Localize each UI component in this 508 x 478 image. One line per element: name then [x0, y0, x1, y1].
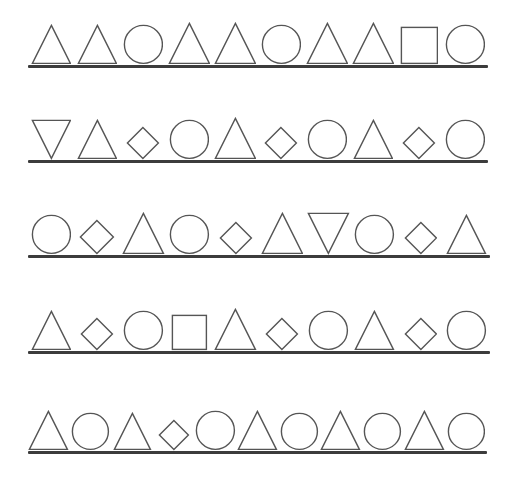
shape-triangle-up: [213, 308, 259, 351]
shape-circle: [167, 214, 213, 255]
shape-circle: [258, 24, 304, 65]
shape-row-5-baseline: [28, 451, 487, 454]
shape-triangle-up: [28, 310, 74, 351]
shape-triangle-up: [28, 410, 70, 451]
shape-circle: [304, 119, 350, 160]
shape-triangle-up: [304, 22, 350, 65]
shape-diamond: [258, 126, 304, 160]
shape-row-2-baseline: [28, 160, 488, 163]
shape-row-3-baseline: [28, 255, 490, 258]
shape-triangle-up: [350, 119, 396, 160]
shape-circle: [445, 412, 487, 451]
shape-circle: [70, 412, 112, 451]
shape-diamond: [120, 126, 166, 160]
shape-triangle-up: [320, 410, 362, 451]
shape-row-5-shapes: [28, 409, 487, 451]
shape-diamond: [396, 126, 442, 160]
shape-row-4-baseline: [28, 351, 490, 354]
shape-triangle-up: [74, 119, 120, 160]
shape-triangle-up: [259, 212, 305, 255]
shape-sequence-sheet: [0, 0, 508, 478]
shape-diamond: [74, 219, 120, 255]
shape-circle: [28, 214, 74, 255]
shape-diamond: [153, 419, 195, 451]
shape-triangle-up: [351, 310, 397, 351]
shape-triangle-down: [305, 212, 351, 255]
shape-triangle-up: [166, 22, 212, 65]
shape-circle: [195, 410, 237, 451]
shape-diamond: [213, 221, 259, 255]
shape-circle: [362, 412, 404, 451]
shape-diamond: [74, 317, 120, 351]
shape-circle: [278, 412, 320, 451]
shape-circle: [351, 214, 397, 255]
shape-triangle-up: [28, 24, 74, 65]
shape-triangle-up: [120, 212, 166, 255]
shape-circle: [442, 24, 488, 65]
shape-row-4-shapes: [28, 309, 490, 351]
shape-circle: [305, 310, 351, 351]
shape-row-1-baseline: [28, 65, 488, 68]
shape-triangle-up: [350, 22, 396, 65]
shape-triangle-up: [212, 117, 258, 160]
shape-triangle-up: [111, 412, 153, 451]
shape-triangle-down: [28, 119, 74, 160]
shape-diamond: [398, 317, 444, 351]
shape-triangle-up: [74, 24, 120, 65]
shape-diamond: [259, 317, 305, 351]
shape-circle: [442, 119, 488, 160]
shape-row-2-shapes: [28, 118, 488, 160]
shape-diamond: [398, 221, 444, 255]
shape-row-3-shapes: [28, 213, 490, 255]
shape-square: [167, 314, 213, 351]
shape-circle: [444, 310, 490, 351]
shape-square: [396, 26, 442, 65]
shape-triangle-up: [237, 410, 279, 451]
shape-triangle-up: [403, 410, 445, 451]
shape-row-1-shapes: [28, 22, 488, 65]
shape-circle: [120, 24, 166, 65]
shape-triangle-up: [444, 214, 490, 255]
shape-circle: [120, 310, 166, 351]
shape-circle: [166, 119, 212, 160]
shape-triangle-up: [212, 22, 258, 65]
